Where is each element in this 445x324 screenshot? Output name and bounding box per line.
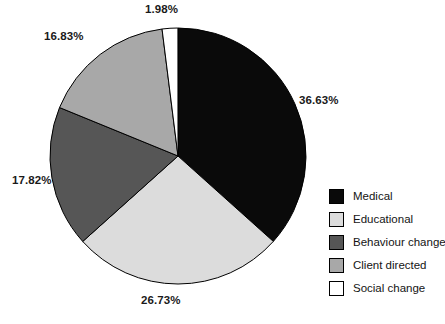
pie-slice-group [50, 28, 306, 284]
data-label-medical: 36.63% [299, 94, 339, 106]
legend-item-educational[interactable]: Educational [329, 212, 445, 227]
legend-label: Behaviour change [353, 235, 445, 250]
pie-chart-figure: 36.63% 26.73% 17.82% 16.83% 1.98% Medica… [0, 0, 445, 324]
data-label-educational: 26.73% [141, 294, 181, 306]
legend-item-medical[interactable]: Medical [329, 189, 445, 204]
legend-swatch-icon [329, 235, 344, 250]
legend-item-behaviour-change[interactable]: Behaviour change [329, 235, 445, 250]
legend-swatch-icon [329, 189, 344, 204]
legend-label: Social change [353, 281, 425, 296]
data-label-client-directed: 16.83% [44, 30, 84, 42]
chart-legend: MedicalEducationalBehaviour changeClient… [329, 189, 445, 296]
legend-label: Client directed [353, 258, 427, 273]
data-label-behaviour-change: 17.82% [12, 174, 52, 186]
legend-swatch-icon [329, 212, 344, 227]
legend-label: Medical [353, 189, 393, 204]
legend-swatch-icon [329, 281, 344, 296]
legend-item-client-directed[interactable]: Client directed [329, 258, 445, 273]
data-label-social-change: 1.98% [145, 3, 178, 15]
legend-label: Educational [353, 212, 413, 227]
legend-swatch-icon [329, 258, 344, 273]
legend-item-social-change[interactable]: Social change [329, 281, 445, 296]
